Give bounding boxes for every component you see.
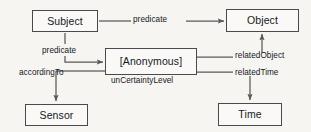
node-sensor[interactable]: Sensor: [25, 104, 88, 126]
node-subject[interactable]: Subject: [32, 10, 98, 32]
edge-label-according-to: accordingTo: [19, 69, 64, 77]
node-object[interactable]: Object: [226, 9, 299, 32]
node-time-label: Time: [238, 109, 261, 120]
edge-label-predicate-top: predicate: [133, 16, 167, 24]
node-anonymous[interactable]: [Anonymous]: [105, 48, 197, 75]
edge-label-related-time: relatedTime: [235, 69, 278, 77]
node-sensor-label: Sensor: [40, 110, 74, 121]
diagram-canvas: Subject Object [Anonymous] Sensor Time p…: [0, 0, 311, 132]
node-object-label: Object: [247, 15, 278, 26]
edge-label-predicate-left: predicate: [42, 47, 76, 55]
node-time[interactable]: Time: [218, 103, 282, 126]
node-subject-label: Subject: [47, 16, 83, 27]
attribute-label-uncertainty-level: unCertaintyLevel: [111, 77, 173, 85]
edge-line-predicate-left-b: [65, 56, 103, 62]
node-anonymous-label: [Anonymous]: [120, 56, 182, 67]
edge-label-related-object: relatedObject: [235, 52, 284, 60]
